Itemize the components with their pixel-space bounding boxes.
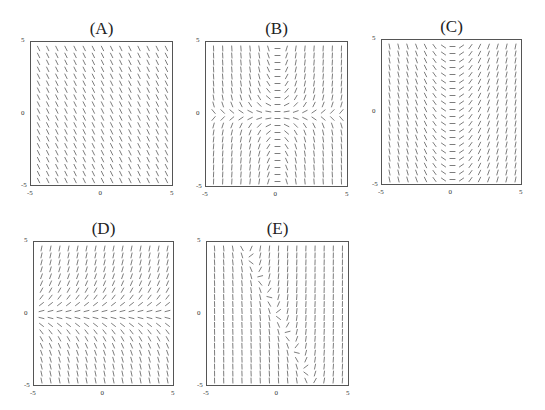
y-tick-label: 5	[196, 36, 200, 44]
x-tick-label: 0	[274, 190, 278, 198]
y-tick-label: 5	[197, 236, 201, 244]
x-tick-label: -5	[30, 389, 36, 397]
slope-field-plot-b	[205, 41, 348, 187]
x-tick-label: -5	[202, 190, 208, 198]
y-tick-label: -5	[196, 182, 202, 190]
x-tick-label: 5	[171, 389, 175, 397]
panel-title-a: (A)	[72, 19, 132, 39]
y-tick-label: 5	[372, 34, 376, 42]
x-tick-label: -5	[203, 389, 209, 397]
slope-segments	[382, 40, 523, 186]
slope-field-plot-e	[206, 241, 349, 386]
panel-title-d: (D)	[74, 219, 134, 239]
y-tick-label: 0	[24, 309, 28, 317]
x-tick-label: 5	[170, 189, 174, 197]
slope-segments	[207, 242, 350, 387]
slope-segments	[31, 42, 174, 187]
panel-title-e: (E)	[248, 219, 308, 239]
y-tick-label: 0	[21, 109, 25, 117]
y-tick-label: -5	[21, 181, 27, 189]
slope-field-plot-a	[30, 41, 173, 186]
y-tick-label: -5	[372, 180, 378, 188]
slope-field-plot-c	[381, 39, 522, 185]
y-tick-label: 0	[372, 107, 376, 115]
y-tick-label: 5	[21, 36, 25, 44]
x-tick-label: -5	[378, 188, 384, 196]
x-tick-label: 5	[346, 389, 350, 397]
x-tick-label: 0	[449, 188, 453, 196]
y-tick-label: 0	[196, 109, 200, 117]
y-tick-label: -5	[24, 381, 30, 389]
panel-title-c: (C)	[422, 17, 482, 37]
x-tick-label: 0	[99, 189, 103, 197]
x-tick-label: 5	[345, 190, 349, 198]
slope-segments	[34, 242, 175, 387]
x-tick-label: 0	[275, 389, 279, 397]
y-tick-label: 5	[24, 236, 28, 244]
slope-field-plot-d	[33, 241, 174, 386]
x-tick-label: 0	[101, 389, 105, 397]
panel-title-b: (B)	[247, 19, 307, 39]
y-tick-label: 0	[197, 309, 201, 317]
y-tick-label: -5	[197, 381, 203, 389]
x-tick-label: -5	[27, 189, 33, 197]
slope-segments	[206, 42, 349, 188]
x-tick-label: 5	[519, 188, 523, 196]
